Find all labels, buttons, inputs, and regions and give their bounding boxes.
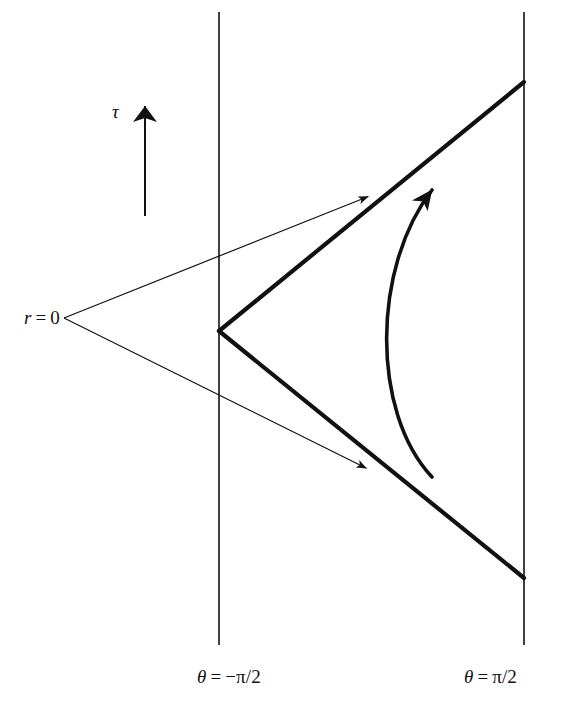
origin-label: r=0: [24, 307, 60, 329]
tau-axis-label: τ: [112, 101, 119, 123]
r-relation: =: [36, 307, 47, 328]
upper-null-ray: [64, 196, 368, 318]
theta-relation-right: =: [477, 666, 488, 687]
conformal-diagram-figure: τ r=0 θ=−π/2 θ=π/2: [0, 0, 569, 705]
left-boundary-label: θ=−π/2: [197, 666, 261, 688]
lightcone-lower-arm: [219, 331, 524, 578]
lightcone-upper-arm: [219, 82, 524, 331]
diagram-canvas: [0, 0, 569, 705]
theta-symbol-right: θ: [464, 666, 473, 687]
theta-symbol-left: θ: [197, 666, 206, 687]
lower-null-ray: [64, 318, 366, 468]
curved-worldline-arrow: [387, 190, 432, 477]
theta-relation-left: =: [210, 666, 221, 687]
theta-value-right: π/2: [492, 666, 517, 687]
tau-symbol: τ: [112, 101, 119, 122]
theta-value-left: −π/2: [225, 666, 261, 687]
right-boundary-label: θ=π/2: [464, 666, 517, 688]
r-symbol: r: [24, 307, 32, 328]
r-value: 0: [50, 307, 60, 328]
